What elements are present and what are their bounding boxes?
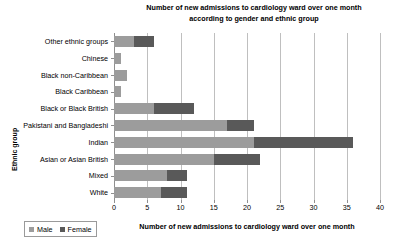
y-axis-tick-label: Chinese [82, 54, 108, 63]
bar-segment-female[interactable] [161, 187, 188, 198]
bar-row[interactable] [114, 184, 380, 201]
bar-segment-male[interactable] [114, 53, 121, 64]
bar-segment-male[interactable] [114, 70, 127, 81]
chart-title-line-2: according to gender and ethnic group [110, 13, 398, 24]
bar-segment-female[interactable] [167, 170, 187, 181]
legend-item-female[interactable]: Female [60, 225, 92, 234]
bar-row[interactable] [114, 151, 380, 168]
y-axis-tick-label: Black Caribbean [55, 87, 108, 96]
bar-segment-male[interactable] [114, 137, 254, 148]
x-axis-tick-mark [347, 200, 348, 203]
bar-segment-male[interactable] [114, 36, 134, 47]
y-axis-tick-label: Pakistani and Bangladeshi [23, 121, 108, 130]
bar-segment-male[interactable] [114, 187, 161, 198]
y-axis-tick-label: Black or Black British [40, 104, 108, 113]
x-axis-tick-label: 20 [243, 203, 251, 212]
x-axis-tick-mark [314, 200, 315, 203]
bar-row[interactable] [114, 167, 380, 184]
bar-row[interactable] [114, 33, 380, 50]
chart-title-line-1: Number of new admissions to cardiology w… [110, 2, 398, 13]
x-axis-tick-label: 30 [310, 203, 318, 212]
bar-row[interactable] [114, 117, 380, 134]
chart-title: Number of new admissions to cardiology w… [110, 2, 398, 24]
x-axis-tick-mark [147, 200, 148, 203]
gridline-40 [380, 33, 381, 201]
bar-segment-female[interactable] [227, 120, 254, 131]
legend-label: Male [37, 225, 53, 234]
y-axis-tick-label: Mixed [89, 171, 108, 180]
bar-segment-female[interactable] [254, 137, 354, 148]
x-axis-tick-mark [280, 200, 281, 203]
x-axis-tick-label: 15 [210, 203, 218, 212]
x-axis-tick-labels: 0510152025303540 [114, 203, 380, 215]
bar-row[interactable] [114, 67, 380, 84]
x-axis-tick-label: 10 [177, 203, 185, 212]
bar-segment-male[interactable] [114, 170, 167, 181]
bar-row[interactable] [114, 83, 380, 100]
bar-row[interactable] [114, 134, 380, 151]
x-axis-tick-mark [247, 200, 248, 203]
bar-segment-male[interactable] [114, 103, 154, 114]
y-axis-tick-label: Black non-Caribbean [41, 71, 108, 80]
x-axis-tick-mark [181, 200, 182, 203]
bar-segment-female[interactable] [154, 103, 194, 114]
legend-item-male[interactable]: Male [29, 225, 53, 234]
y-axis-tick-labels: WhiteMixedAsian or Asian BritishIndianPa… [0, 33, 111, 201]
bar-segment-male[interactable] [114, 86, 121, 97]
x-axis-tick-mark [114, 200, 115, 203]
x-axis-tick-label: 40 [376, 203, 384, 212]
bar-segment-female[interactable] [134, 36, 154, 47]
bar-row[interactable] [114, 100, 380, 117]
y-axis-tick-label: White [90, 188, 108, 197]
legend-label: Female [68, 225, 92, 234]
bar-segment-male[interactable] [114, 154, 214, 165]
x-axis-title: Number of new admissions to cardiology w… [114, 222, 380, 231]
x-axis-tick-label: 5 [145, 203, 149, 212]
plot-area [114, 33, 380, 201]
bar-segment-female[interactable] [214, 154, 261, 165]
y-axis-tick-label: Indian [88, 138, 108, 147]
legend-swatch-icon [29, 227, 34, 232]
y-axis-tick-label: Asian or Asian British [40, 155, 108, 164]
legend-swatch-icon [60, 227, 65, 232]
x-axis-tick-mark [380, 200, 381, 203]
chart-legend: MaleFemale [24, 221, 97, 237]
x-axis-tick-label: 25 [276, 203, 284, 212]
x-axis-tick-label: 0 [112, 203, 116, 212]
x-axis-tick-label: 35 [343, 203, 351, 212]
bar-row[interactable] [114, 50, 380, 67]
bar-segment-male[interactable] [114, 120, 227, 131]
x-axis-tick-mark [214, 200, 215, 203]
y-axis-tick-label: Other ethnic groups [45, 37, 108, 46]
